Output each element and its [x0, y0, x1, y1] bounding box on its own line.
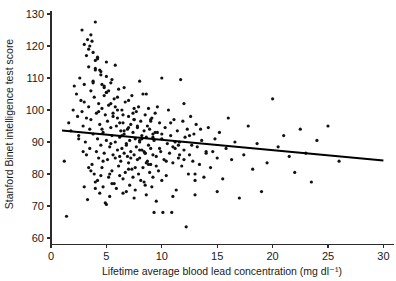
data-point: [84, 140, 87, 143]
data-point: [171, 161, 174, 164]
data-point: [149, 120, 152, 123]
data-point: [142, 180, 145, 183]
data-point: [199, 128, 202, 131]
data-point: [310, 180, 313, 183]
data-point: [238, 196, 241, 199]
data-point: [138, 156, 141, 159]
data-point: [89, 89, 92, 92]
data-point: [293, 171, 296, 174]
data-point: [90, 40, 93, 43]
data-point: [181, 120, 184, 123]
data-point: [218, 131, 221, 134]
data-point: [175, 188, 178, 191]
data-point: [125, 144, 128, 147]
data-point: [178, 153, 181, 156]
data-point: [137, 105, 140, 108]
data-point: [183, 136, 186, 139]
data-point: [121, 113, 124, 116]
data-point: [98, 192, 101, 195]
data-point: [101, 185, 104, 188]
y-tick-label: 60: [32, 232, 44, 244]
data-point: [161, 211, 164, 214]
data-point: [95, 150, 98, 153]
data-point: [299, 128, 302, 131]
data-point: [116, 96, 119, 99]
data-point: [127, 168, 130, 171]
data-point: [78, 76, 81, 79]
figure-background: [0, 0, 396, 281]
data-point: [138, 80, 141, 83]
data-point: [207, 126, 210, 129]
data-point: [93, 172, 96, 175]
data-point: [159, 150, 162, 153]
data-point: [116, 116, 119, 119]
data-point: [120, 147, 123, 150]
data-point: [326, 124, 329, 127]
data-point: [155, 155, 158, 158]
data-point: [146, 124, 149, 127]
data-point: [79, 99, 82, 102]
data-point: [119, 160, 122, 163]
data-point: [128, 184, 131, 187]
data-point: [154, 112, 157, 115]
data-point: [116, 108, 119, 111]
data-point: [92, 81, 95, 84]
data-point: [180, 164, 183, 167]
data-point: [158, 121, 161, 124]
data-point: [103, 94, 106, 97]
data-point: [337, 160, 340, 163]
data-point: [98, 123, 101, 126]
data-point: [144, 113, 147, 116]
data-point: [104, 113, 107, 116]
data-point: [72, 108, 75, 111]
data-point: [315, 139, 318, 142]
data-point: [221, 177, 224, 180]
data-point: [93, 96, 96, 99]
x-tick-label: 20: [266, 250, 278, 262]
data-point: [142, 129, 145, 132]
data-point: [251, 168, 254, 171]
y-axis-title: Stanford Binet intelligence test score: [3, 39, 15, 210]
data-point: [123, 152, 126, 155]
data-point: [103, 152, 106, 155]
data-point: [168, 152, 171, 155]
data-point: [114, 105, 117, 108]
data-point: [82, 150, 85, 153]
data-point: [182, 102, 185, 105]
data-point: [133, 107, 136, 110]
data-point: [277, 145, 280, 148]
data-point: [94, 20, 97, 23]
data-point: [103, 84, 106, 87]
data-point: [224, 147, 227, 150]
data-point: [200, 139, 203, 142]
data-point: [137, 172, 140, 175]
data-point: [148, 171, 151, 174]
data-point: [171, 145, 174, 148]
y-tick-label: 90: [32, 136, 44, 148]
data-point: [117, 88, 120, 91]
data-point: [144, 184, 147, 187]
data-point: [190, 144, 193, 147]
data-point: [165, 160, 168, 163]
data-point: [202, 176, 205, 179]
data-point: [89, 169, 92, 172]
data-point: [123, 86, 126, 89]
data-point: [111, 112, 114, 115]
data-point: [150, 185, 153, 188]
data-point: [85, 116, 88, 119]
data-point: [87, 48, 90, 51]
data-point: [139, 120, 142, 123]
data-point: [115, 124, 118, 127]
data-point: [85, 153, 88, 156]
data-point: [117, 164, 120, 167]
data-point: [147, 144, 150, 147]
data-point: [75, 92, 78, 95]
data-point: [114, 64, 117, 67]
x-tick-label: 30: [377, 250, 389, 262]
data-point: [265, 161, 268, 164]
data-point: [83, 83, 86, 86]
data-point: [185, 225, 188, 228]
x-tick-label: 10: [156, 250, 168, 262]
data-point: [182, 148, 185, 151]
data-point: [99, 174, 102, 177]
